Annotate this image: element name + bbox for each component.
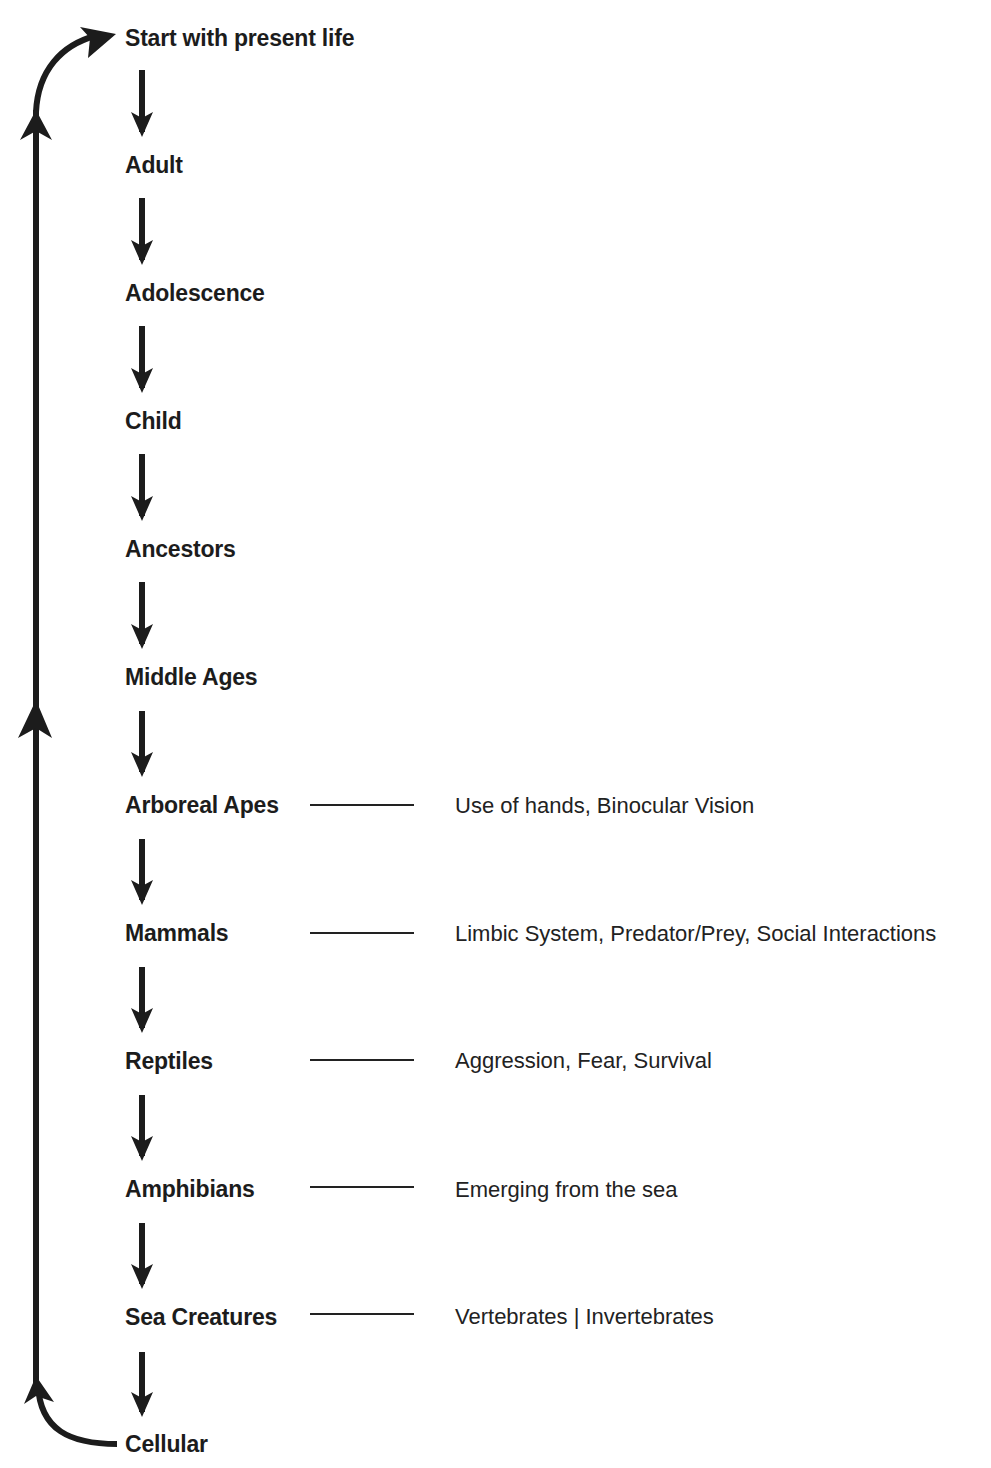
connector-line	[310, 1313, 414, 1315]
trait-mammals: Limbic System, Predator/Prey, Social Int…	[455, 920, 936, 948]
down-arrow-icon	[131, 839, 153, 905]
cycle-bottom-curve	[38, 1385, 117, 1444]
stage-adolescence: Adolescence	[125, 279, 265, 307]
stage-ancestors: Ancestors	[125, 535, 236, 563]
down-arrow-icon	[131, 198, 153, 265]
trait-arboreal-apes: Use of hands, Binocular Vision	[455, 792, 754, 820]
connector-line	[310, 932, 414, 934]
stage-sea-creatures: Sea Creatures	[125, 1303, 277, 1331]
down-arrows	[131, 70, 153, 1417]
stage-child: Child	[125, 407, 182, 435]
down-arrow-icon	[131, 1095, 153, 1161]
connector-line	[310, 1059, 414, 1061]
stage-mammals: Mammals	[125, 919, 228, 947]
down-arrow-icon	[131, 1352, 153, 1417]
trait-reptiles: Aggression, Fear, Survival	[455, 1047, 712, 1075]
diagram-arrows	[0, 0, 991, 1468]
stage-cellular: Cellular	[125, 1430, 208, 1458]
right-arrowhead-icon-top	[80, 27, 116, 58]
down-arrow-icon	[131, 1223, 153, 1289]
connector-line	[310, 804, 414, 806]
connector-line	[310, 1186, 414, 1188]
down-arrow-icon	[131, 582, 153, 649]
stage-start-present-life: Start with present life	[125, 24, 354, 52]
stage-adult: Adult	[125, 151, 183, 179]
stage-arboreal-apes: Arboreal Apes	[125, 791, 279, 819]
stage-amphibians: Amphibians	[125, 1175, 255, 1203]
trait-sea-creatures: Vertebrates | Invertebrates	[455, 1303, 714, 1331]
cycle-top-curve	[36, 36, 95, 112]
stage-reptiles: Reptiles	[125, 1047, 213, 1075]
down-arrow-icon	[131, 967, 153, 1033]
down-arrow-icon	[131, 454, 153, 521]
down-arrow-icon	[131, 711, 153, 777]
stage-middle-ages: Middle Ages	[125, 663, 257, 691]
down-arrow-icon	[131, 70, 153, 137]
trait-amphibians: Emerging from the sea	[455, 1176, 678, 1204]
cycle-return-arrow	[18, 27, 117, 1444]
down-arrow-icon	[131, 326, 153, 393]
